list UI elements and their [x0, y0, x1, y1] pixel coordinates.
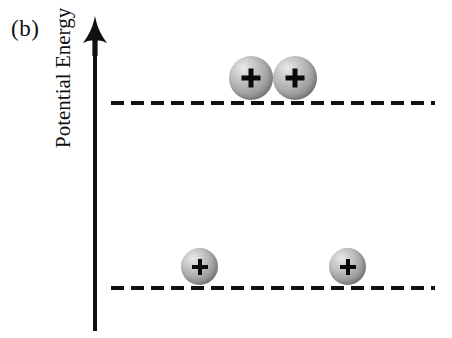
potential-energy-diagram: (b) Potential Energy [0, 0, 452, 338]
plus-sign-icon [198, 259, 202, 275]
plus-sign-icon [293, 69, 298, 88]
plus-sign-icon [346, 259, 350, 275]
axis-title: Potential Energy [50, 0, 76, 148]
potential-energy-axis-line [93, 46, 97, 331]
upper-energy-level [111, 101, 435, 105]
arrow-up-icon [79, 16, 111, 56]
lower-energy-level [111, 286, 435, 290]
bottom-left-charge [181, 248, 218, 285]
panel-label: (b) [11, 17, 39, 40]
bottom-right-charge [329, 248, 366, 285]
top-left-charge [229, 56, 273, 100]
plus-sign-icon [249, 69, 254, 88]
top-right-charge [273, 56, 317, 100]
